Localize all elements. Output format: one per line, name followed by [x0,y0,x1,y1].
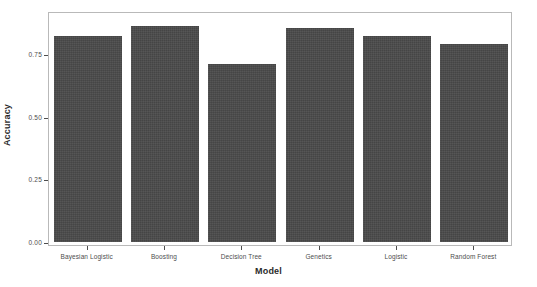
y-tick-label: 0.25 [29,176,42,183]
x-tick-label: Logistic [357,253,434,260]
bar [363,36,431,242]
bar-series [49,13,511,245]
bar [54,36,122,242]
bar [440,44,508,242]
y-tick-label: 0.50 [29,114,42,121]
bar [208,64,276,242]
x-tick-mark [241,246,242,250]
x-tick-label: Random Forest [435,253,512,260]
bar [131,26,199,242]
bar [286,28,354,242]
y-axis-title: Accuracy [2,85,12,165]
plot-panel [48,12,512,246]
x-tick-label: Boosting [125,253,202,260]
x-tick-mark [87,246,88,250]
x-tick-mark [319,246,320,250]
x-tick-mark [473,246,474,250]
y-tick-label: 0.00 [29,239,42,246]
x-tick-label: Bayesian Logistic [48,253,125,260]
y-tick-label: 0.75 [29,51,42,58]
bar-chart-figure: 0.000.250.500.75 Bayesian LogisticBoosti… [0,0,537,287]
x-tick-mark [396,246,397,250]
x-tick-label: Genetics [280,253,357,260]
x-tick-mark [164,246,165,250]
x-axis-title: Model [0,266,537,276]
x-tick-label: Decision Tree [203,253,280,260]
